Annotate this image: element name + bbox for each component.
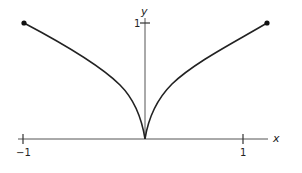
curve-right-branch [145, 23, 267, 139]
curve-left-branch [24, 23, 145, 139]
endpoint-right-dot [264, 20, 269, 25]
x-axis-label: x [272, 132, 280, 145]
y-axis-label: y [140, 5, 148, 18]
endpoint-left-dot [21, 20, 26, 25]
cusp-curve-plot: −1 1 1 x y [0, 0, 302, 173]
x-tick-label-neg1: −1 [16, 147, 31, 158]
y-tick-label-1: 1 [134, 18, 140, 29]
x-tick-label-1: 1 [240, 147, 246, 158]
